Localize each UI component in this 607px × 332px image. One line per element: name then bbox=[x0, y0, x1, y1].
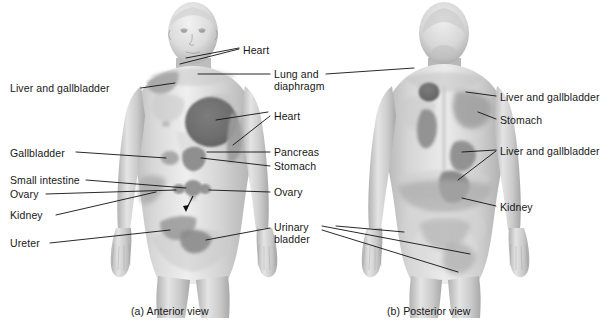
caption-posterior-view: (b) Posterior view bbox=[387, 305, 471, 317]
label-pancreas: Pancreas bbox=[274, 146, 319, 158]
label-kidney-posterior: Kidney bbox=[500, 201, 533, 213]
label-gallbladder-anterior: Gallbladder bbox=[10, 147, 65, 159]
region-liver-and-gallbladder-scapula bbox=[419, 83, 440, 102]
label-lung-and-diaphragm: Lung and diaphragm bbox=[274, 68, 325, 92]
region-ovary-left-lower-quadrant bbox=[173, 184, 185, 194]
region-ovary-right-lower-quadrant bbox=[199, 184, 211, 194]
label-liver-and-gallbladder-anterior: Liver and gallbladder bbox=[10, 82, 110, 94]
posterior-body bbox=[362, 2, 530, 318]
label-ureter: Ureter bbox=[10, 237, 40, 249]
label-stomach-anterior: Stomach bbox=[274, 160, 316, 172]
label-liver-and-gallbladder-posterior-lower: Liver and gallbladder bbox=[500, 145, 600, 157]
label-urinary-bladder: Urinary bladder bbox=[274, 221, 310, 245]
label-ovary-left: Ovary bbox=[10, 188, 39, 200]
label-liver-and-gallbladder-posterior-upper: Liver and gallbladder bbox=[500, 91, 600, 103]
referred-pain-figure: Liver and gallbladder Gallbladder Small … bbox=[0, 0, 607, 332]
label-ovary-right: Ovary bbox=[274, 186, 303, 198]
label-kidney-anterior: Kidney bbox=[10, 209, 43, 221]
label-heart-chest: Heart bbox=[274, 110, 300, 122]
label-stomach-posterior: Stomach bbox=[500, 114, 542, 126]
label-small-intestine: Small intestine bbox=[10, 174, 80, 186]
caption-anterior-view: (a) Anterior view bbox=[131, 305, 209, 317]
label-heart-neck: Heart bbox=[243, 44, 269, 56]
